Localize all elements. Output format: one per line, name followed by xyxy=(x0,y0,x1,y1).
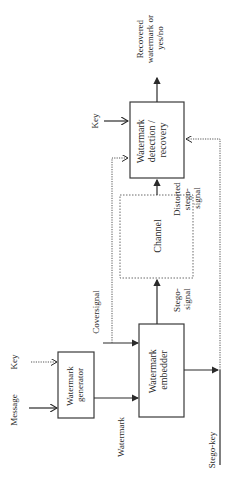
generator-label-1: Watermark xyxy=(65,366,75,406)
detection-label-2: detection / xyxy=(146,120,157,162)
stego-key-label: Stego-key xyxy=(207,431,217,468)
watermark-label: Watermark xyxy=(116,417,126,457)
coversignal-label: Coversignal xyxy=(91,290,101,334)
svg-text:Stego- signal: Stego- signal xyxy=(172,286,192,312)
stego-signal-label-1: Stego- xyxy=(172,288,182,312)
distorted-label-1: Distorted xyxy=(172,182,182,216)
svg-text:Channel: Channel xyxy=(152,219,163,253)
stego-signal-label-2: signal xyxy=(182,288,192,310)
embedder-label-1: Watermark xyxy=(147,349,158,393)
watermarking-diagram: Watermark generator Watermark embedder C… xyxy=(0,0,235,483)
watermark-detection-block: Watermark detection / recovery xyxy=(130,102,184,178)
message-label: Message xyxy=(9,394,19,426)
channel-label: Channel xyxy=(152,219,163,253)
distorted-label-3: signal xyxy=(192,187,202,209)
output-label-2: watermark or xyxy=(145,15,155,63)
svg-text:Watermark embedder: Watermark embedder xyxy=(147,347,169,394)
key-generator-label: Key xyxy=(9,354,19,369)
watermark-generator-block: Watermark generator xyxy=(58,352,94,418)
distorted-label-2: stego- xyxy=(182,188,192,210)
watermark-embedder-block: Watermark embedder xyxy=(139,324,184,417)
output-label-1: Recovered xyxy=(135,19,145,58)
svg-text:Watermark detection /: Watermark detection / recovery xyxy=(135,117,168,164)
svg-text:Recovered watermark or: Recovered watermark or yes/no xyxy=(135,13,165,63)
generator-label-2: generator xyxy=(75,368,85,402)
output-label-3: yes/no xyxy=(155,26,165,50)
svg-text:Distorted stego- signa: Distorted stego- signal xyxy=(172,180,202,216)
key-detection-label: Key xyxy=(90,113,100,128)
detection-label-1: Watermark xyxy=(135,119,146,163)
embedder-label-2: embedder xyxy=(158,350,169,390)
detection-label-3: recovery xyxy=(157,123,168,158)
svg-text:Watermark generator: Watermark generator xyxy=(65,364,85,406)
